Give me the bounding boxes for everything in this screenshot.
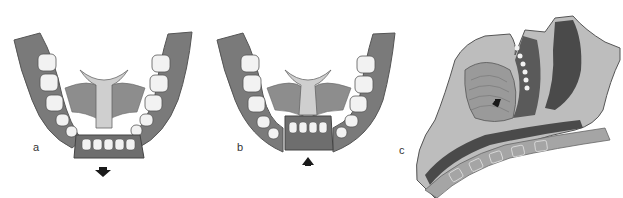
- mandible-illustration-a: [0, 0, 205, 198]
- panel-c: c: [405, 0, 623, 198]
- sagittal-head-illustration-c: [405, 0, 623, 198]
- mandible-illustration-b: [205, 0, 405, 198]
- panel-label-a: a: [33, 141, 39, 153]
- panel-b: b: [205, 0, 405, 198]
- arrow-down-icon: [95, 167, 111, 177]
- panel-label-b: b: [237, 141, 243, 153]
- panel-label-c: c: [399, 144, 405, 156]
- panel-a: a: [0, 0, 205, 198]
